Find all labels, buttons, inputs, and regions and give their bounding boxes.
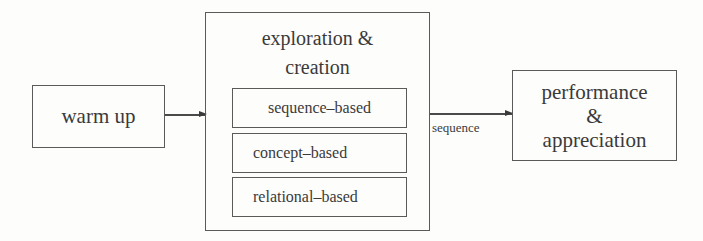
arrow-exploration-to-performance: [430, 113, 512, 115]
warm-up-label: warm up: [61, 104, 135, 129]
exploration-creation-node: exploration & creation sequence–based co…: [205, 12, 430, 231]
relational-based-label: relational–based: [253, 188, 358, 206]
performance-appreciation-node: performance & appreciation: [512, 70, 677, 161]
warm-up-node: warm up: [32, 85, 165, 148]
sequence-based-label: sequence–based: [268, 99, 371, 117]
exploration-title: exploration & creation: [206, 24, 429, 82]
performance-line3: appreciation: [543, 128, 647, 152]
exploration-title-line2: creation: [206, 53, 429, 82]
concept-based-node: concept–based: [232, 133, 407, 173]
performance-line1: performance: [541, 80, 647, 104]
exploration-title-line1: exploration &: [206, 24, 429, 53]
concept-based-label: concept–based: [253, 144, 347, 162]
relational-based-node: relational–based: [232, 177, 407, 217]
arrow-warmup-to-exploration: [165, 114, 206, 116]
performance-line2: &: [586, 104, 602, 128]
edge-label-sequence: sequence: [432, 120, 480, 136]
sequence-based-node: sequence–based: [232, 88, 407, 128]
